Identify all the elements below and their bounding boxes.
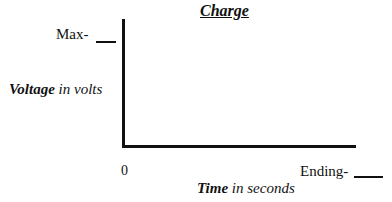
y-max-label: Max- [56, 26, 89, 43]
y-max-blank [96, 41, 116, 43]
x-end-blank [354, 176, 383, 178]
x-axis-label: Time in seconds [197, 180, 295, 197]
x-axis-label-rest: in seconds [228, 180, 295, 196]
x-axis-line [122, 145, 356, 148]
y-axis-line [122, 19, 125, 148]
y-axis-label-bold: Voltage [9, 81, 55, 97]
chart-title: Charge [200, 2, 249, 20]
y-axis-label-rest: in volts [55, 81, 103, 97]
x-end-label: Ending- [300, 163, 348, 180]
x-axis-label-bold: Time [197, 180, 228, 196]
y-axis-label: Voltage in volts [9, 81, 102, 98]
x-origin-label: 0 [121, 163, 128, 179]
